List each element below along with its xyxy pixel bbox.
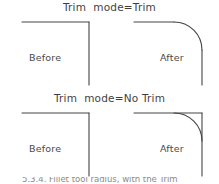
after-fillet-arc-trim xyxy=(174,22,202,50)
figure-canvas: Trim mode=Trim Before After Trim mode=No… xyxy=(0,0,219,184)
after-fillet-arc-no-trim xyxy=(174,113,202,141)
caption-text: 5.3.4. Fillet tool radius, with the Trim xyxy=(22,177,178,184)
panel-trim-drawing xyxy=(0,0,219,92)
before-label-trim: Before xyxy=(29,52,61,63)
panel-trim-mode-no-trim: Trim mode=No Trim Before After xyxy=(0,91,219,183)
panel-no-trim-drawing xyxy=(0,91,219,183)
after-label-no-trim: After xyxy=(160,143,184,154)
before-label-no-trim: Before xyxy=(29,143,61,154)
caption-clipped: 5.3.4. Fillet tool radius, with the Trim xyxy=(0,177,219,184)
panel-trim-mode-trim: Trim mode=Trim Before After xyxy=(0,0,219,92)
after-label-trim: After xyxy=(160,52,184,63)
